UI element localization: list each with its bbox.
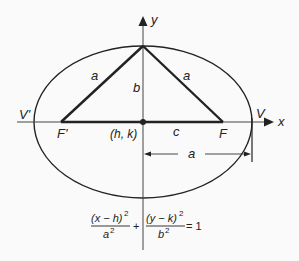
x-axis-arrow-icon — [264, 118, 274, 127]
eq-plus: + — [133, 220, 139, 232]
label-left-vertex: V' — [19, 107, 31, 122]
label-c: c — [173, 124, 180, 139]
eq-den1: a — [103, 228, 109, 240]
eq-exp1: 2 — [124, 209, 129, 218]
y-axis-label: y — [150, 12, 159, 27]
label-b: b — [133, 80, 140, 95]
label-right-focus: F — [219, 126, 228, 141]
eq-num1: (x − h) — [91, 212, 123, 224]
eq-dexp1: 2 — [110, 226, 115, 235]
label-left-a: a — [91, 68, 98, 83]
left-side-a — [61, 46, 143, 122]
eq-dexp2: 2 — [165, 226, 170, 235]
eq-den2: b — [158, 228, 164, 240]
label-right-vertex: V — [256, 106, 266, 121]
ellipse-equation: (x − h) 2 a 2 + (y − k) 2 b 2 = 1 — [91, 209, 202, 240]
dimension-arrow-left-icon — [144, 152, 151, 157]
dimension-arrow-right-icon — [244, 152, 251, 157]
svg-text:(x − h): (x − h) — [91, 212, 123, 224]
label-right-a: a — [183, 68, 190, 83]
eq-num2: (y − k) — [146, 212, 177, 224]
label-dimension-a: a — [188, 146, 195, 161]
eq-rhs: = 1 — [186, 220, 202, 232]
label-left-focus: F' — [57, 126, 68, 141]
ellipse-diagram: y x a a b c a V' V F' F (h, k) (x − h) 2… — [0, 0, 299, 261]
eq-exp2: 2 — [179, 209, 184, 218]
right-side-a — [143, 46, 223, 122]
label-center: (h, k) — [110, 127, 137, 141]
y-axis-arrow-icon — [139, 16, 148, 26]
center-point — [140, 119, 146, 125]
x-axis-label: x — [277, 114, 285, 129]
